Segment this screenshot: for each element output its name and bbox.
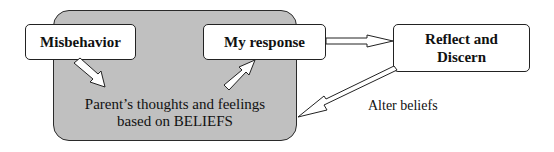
- arrow-region-to-response-icon: [224, 60, 255, 90]
- arrows-layer: [0, 0, 554, 152]
- arrow-reflect-to-region-icon: [298, 66, 397, 117]
- arrow-misbehavior-to-region-icon: [74, 58, 105, 87]
- arrow-response-to-reflect-icon: [326, 35, 393, 47]
- beliefs-cycle-diagram: Misbehavior My response Reflect and Disc…: [0, 0, 554, 152]
